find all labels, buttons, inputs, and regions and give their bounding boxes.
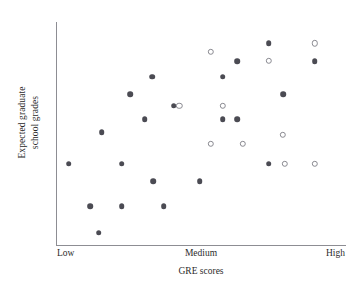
data-point-filled xyxy=(87,203,93,209)
data-point-open xyxy=(265,58,271,64)
data-point-filled xyxy=(161,203,167,209)
data-point-filled xyxy=(266,40,272,46)
data-point-open xyxy=(240,140,246,146)
data-point-filled xyxy=(312,58,318,64)
data-point-filled xyxy=(220,116,226,122)
data-point-filled xyxy=(96,230,102,236)
data-point-filled xyxy=(151,179,157,185)
data-point-filled xyxy=(280,92,286,98)
scatter-plot-figure: Expected graduate school grades Low Medi… xyxy=(0,0,357,291)
data-point-filled xyxy=(128,92,134,98)
data-point-filled xyxy=(234,116,240,122)
y-axis-label-line-1: Expected graduate xyxy=(16,86,29,158)
data-point-filled xyxy=(220,74,226,80)
y-axis-label-line-2: school grades xyxy=(29,86,42,158)
data-point-filled xyxy=(197,179,203,185)
data-point-filled xyxy=(149,74,155,80)
data-point-filled xyxy=(119,203,125,209)
data-point-filled xyxy=(66,161,72,167)
y-axis-label: Expected graduate school grades xyxy=(0,0,57,245)
data-point-open xyxy=(208,49,214,55)
x-tick-label-high: High xyxy=(326,248,345,258)
x-axis-label: GRE scores xyxy=(178,266,223,276)
data-point-open xyxy=(219,102,225,108)
data-point-open xyxy=(312,40,318,46)
data-point-filled xyxy=(119,161,125,167)
x-tick-label-medium: Medium xyxy=(185,248,217,258)
data-point-open xyxy=(281,160,287,166)
data-point-filled xyxy=(266,161,272,167)
data-point-open xyxy=(280,131,286,137)
data-point-open xyxy=(312,160,318,166)
data-point-open xyxy=(208,140,214,146)
data-point-filled xyxy=(142,116,148,122)
data-point-filled xyxy=(234,58,240,64)
data-point-open xyxy=(176,102,182,108)
plot-area xyxy=(57,22,345,245)
data-point-filled xyxy=(99,130,105,136)
x-axis-line xyxy=(56,245,346,246)
x-tick-label-low: Low xyxy=(57,248,74,258)
